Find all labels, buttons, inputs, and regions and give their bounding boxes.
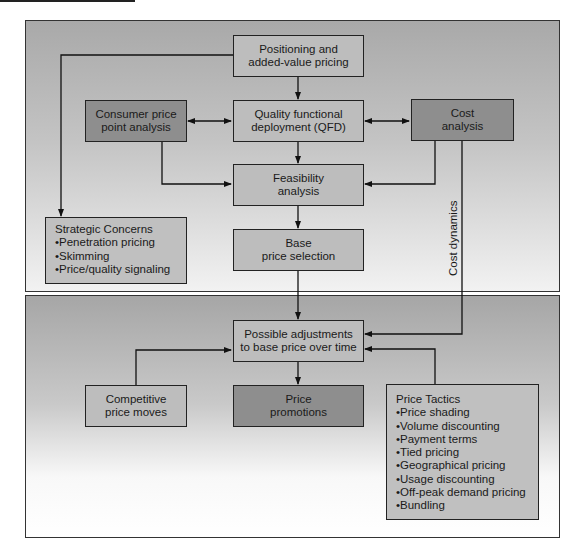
list-item: Tied pricing xyxy=(396,446,529,459)
list-item: Skimming xyxy=(55,250,177,263)
consumer-price-box: Consumer price point analysis xyxy=(85,100,187,142)
possible-adjustments-line2: to base price over time xyxy=(240,341,356,354)
strategic-concerns-list: Penetration pricing Skimming Price/quali… xyxy=(55,236,177,276)
cost-analysis-box: Cost analysis xyxy=(411,99,514,141)
strategic-concerns-box: Strategic Concerns Penetration pricing S… xyxy=(45,217,187,284)
list-item: Price shading xyxy=(396,406,529,419)
competitive-moves-line1: Competitive xyxy=(106,393,167,406)
positioning-line2: added-value pricing xyxy=(248,56,348,69)
positioning-box: Positioning and added-value pricing xyxy=(233,35,364,77)
competitive-moves-box: Competitive price moves xyxy=(85,385,187,427)
list-item: Price/quality signaling xyxy=(55,263,177,276)
list-item: Payment terms xyxy=(396,433,529,446)
price-promotions-line2: promotions xyxy=(270,406,327,419)
price-promotions-line1: Price xyxy=(285,393,311,406)
consumer-price-line1: Consumer price xyxy=(95,108,176,121)
list-item: Off-peak demand pricing xyxy=(396,486,529,499)
list-item: Penetration pricing xyxy=(55,236,177,249)
feasibility-box: Feasibility analysis xyxy=(233,164,364,206)
base-price-box: Base price selection xyxy=(233,229,364,271)
base-price-line1: Base xyxy=(285,237,311,250)
possible-adjustments-line1: Possible adjustments xyxy=(244,328,353,341)
qfd-line1: Quality functional xyxy=(254,108,342,121)
qfd-box: Quality functional deployment (QFD) xyxy=(233,100,364,142)
consumer-price-line2: point analysis xyxy=(101,121,171,134)
feasibility-line1: Feasibility xyxy=(273,172,324,185)
qfd-line2: deployment (QFD) xyxy=(251,121,346,134)
possible-adjustments-box: Possible adjustments to base price over … xyxy=(233,320,364,362)
price-tactics-box: Price Tactics Price shading Volume disco… xyxy=(386,384,539,520)
list-item: Volume discounting xyxy=(396,420,529,433)
cost-analysis-line2: analysis xyxy=(442,120,484,133)
cost-dynamics-label: Cost dynamics xyxy=(447,201,459,276)
base-price-line2: price selection xyxy=(262,250,336,263)
price-promotions-box: Price promotions xyxy=(233,385,364,427)
price-tactics-list: Price shading Volume discounting Payment… xyxy=(396,406,529,512)
cost-analysis-line1: Cost xyxy=(451,107,475,120)
price-tactics-title: Price Tactics xyxy=(396,393,529,406)
feasibility-line2: analysis xyxy=(278,185,320,198)
strategic-concerns-title: Strategic Concerns xyxy=(55,223,177,236)
competitive-moves-line2: price moves xyxy=(105,406,167,419)
list-item: Usage discounting xyxy=(396,473,529,486)
positioning-line1: Positioning and xyxy=(259,43,338,56)
list-item: Geographical pricing xyxy=(396,459,529,472)
list-item: Bundling xyxy=(396,499,529,512)
